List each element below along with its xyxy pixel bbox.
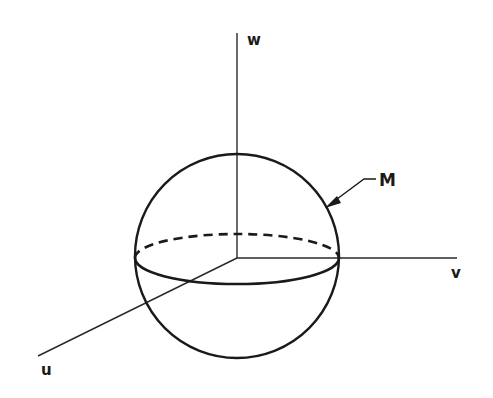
manifold-label: M xyxy=(379,172,396,189)
w-axis-label: w xyxy=(247,33,261,48)
equator-front-solid xyxy=(135,258,339,284)
leader-line xyxy=(333,179,376,202)
v-axis-label: v xyxy=(451,266,461,281)
sphere-diagram xyxy=(0,0,493,398)
u-axis-label: u xyxy=(41,363,52,378)
